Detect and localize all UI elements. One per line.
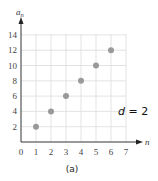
x-axis-label: n	[145, 137, 150, 147]
difference-annotation: d = 2	[118, 105, 148, 118]
y-axis-arrow-icon	[19, 17, 24, 24]
y-tick-label: 4	[13, 106, 18, 116]
x-axis-arrow-icon	[136, 140, 143, 145]
data-point	[78, 78, 84, 84]
figure-caption: (a)	[66, 164, 79, 174]
data-point	[33, 124, 39, 130]
data-points	[33, 47, 114, 130]
data-point	[108, 47, 114, 53]
y-tick-label: 8	[13, 76, 18, 86]
data-point	[93, 63, 99, 69]
x-tick-label: 5	[94, 147, 99, 157]
x-tick-label: 1	[34, 147, 39, 157]
x-tick-label: 4	[79, 147, 84, 157]
y-tick-label: 2	[13, 122, 18, 132]
scatter-chart: 01234567 2468101214 an n d = 2 (a)	[0, 0, 158, 181]
x-tick-label: 6	[109, 147, 114, 157]
y-tick-label: 12	[8, 45, 17, 55]
y-tick-label: 6	[13, 91, 18, 101]
y-axis-label: an	[16, 7, 24, 18]
x-tick-label: 2	[49, 147, 54, 157]
y-tick-label: 10	[8, 61, 18, 71]
x-tick-label: 7	[124, 147, 129, 157]
data-point	[48, 108, 54, 114]
x-tick-labels: 01234567	[19, 147, 129, 157]
y-tick-labels: 2468101214	[8, 30, 18, 132]
x-tick-label: 3	[64, 147, 69, 157]
data-point	[63, 93, 69, 99]
y-tick-label: 14	[8, 30, 18, 40]
x-tick-label: 0	[19, 147, 24, 157]
